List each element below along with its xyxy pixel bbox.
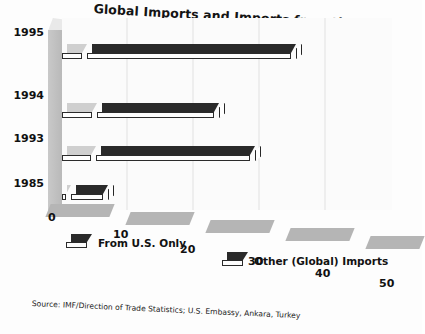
bar-1985 [62, 185, 108, 200]
bar-segment-from-us-1985 [62, 185, 71, 200]
bar-segment-from-us-1994 [62, 103, 97, 118]
segment-top-face [92, 44, 296, 53]
bar-1994 [62, 103, 219, 118]
segment-front-face [71, 194, 103, 200]
floor-segment [125, 212, 194, 225]
segment-top-face [76, 185, 108, 194]
segment-top-face [101, 146, 255, 155]
segment-front-face [96, 155, 250, 161]
x-axis-tick-0: 0 [48, 211, 56, 224]
axis-wall-left [48, 30, 62, 210]
y-axis-label-1995: 1995 [4, 26, 44, 39]
bar-1993 [62, 146, 255, 161]
bar-segment-from-us-1993 [62, 146, 96, 161]
bar-segment-other-global-1993 [96, 146, 255, 161]
y-axis-label-1993: 1993 [4, 132, 44, 145]
x-axis-tick-40: 40 [315, 267, 330, 280]
swatch-front-face [66, 242, 87, 248]
floor-segment [205, 220, 274, 233]
gridline-40 [324, 18, 326, 210]
axis-floor [48, 198, 422, 240]
segment-top-face [67, 146, 96, 155]
bar-segment-other-global-1994 [97, 103, 219, 118]
source-note: Source: IMF/Direction of Trade Statistic… [32, 299, 402, 325]
floor-segment [365, 236, 424, 249]
floor-segment [285, 228, 354, 241]
bar-segment-other-global-1995 [87, 44, 296, 59]
legend-label-from-us-only: From U.S. Only [98, 237, 186, 249]
segment-top-face [67, 103, 97, 112]
legend-swatch-from-us-only [66, 234, 92, 248]
segment-top-face [67, 44, 87, 53]
y-axis-label-1985: 1985 [4, 177, 44, 190]
bar-segment-other-global-1985 [71, 185, 108, 200]
legend-swatch-other-global-imports [222, 252, 248, 266]
legend-label-other-global-imports: Other (Global) Imports [254, 255, 388, 267]
segment-front-face [87, 53, 291, 59]
segment-front-face [62, 155, 91, 161]
segment-front-face [62, 112, 92, 118]
swatch-top-face [71, 234, 92, 242]
swatch-top-face [227, 252, 248, 260]
y-axis-label-1994: 1994 [4, 89, 44, 102]
segment-front-face [62, 53, 82, 59]
x-axis-tick-50: 50 [379, 277, 394, 290]
swatch-front-face [222, 260, 243, 266]
segment-front-face [97, 112, 214, 118]
bar-segment-from-us-1995 [62, 44, 87, 59]
segment-top-face [102, 103, 219, 112]
bar-1995 [62, 44, 296, 59]
segment-front-face [62, 194, 66, 200]
